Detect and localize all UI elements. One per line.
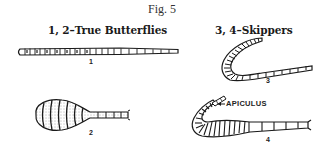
- antenna-drawing-3: [222, 38, 312, 81]
- antenna-drawing-1: [19, 48, 179, 55]
- antennae-illustrations: [0, 0, 326, 151]
- figure-number-4: 4: [266, 136, 270, 143]
- figure-number-1: 1: [89, 58, 93, 65]
- apiculus-label: APICULUS: [226, 99, 267, 108]
- antenna-drawing-2: [36, 100, 130, 131]
- figure-number-2: 2: [89, 129, 93, 136]
- figure-number-3: 3: [266, 77, 270, 84]
